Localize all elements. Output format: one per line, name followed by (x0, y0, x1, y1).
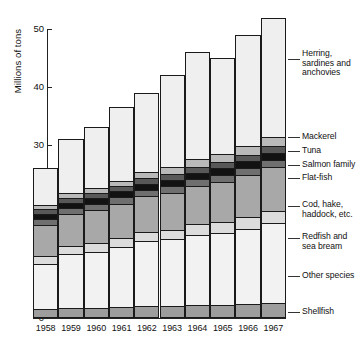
bar-segment (210, 154, 235, 162)
x-axis-line (33, 318, 286, 319)
legend-label-redfish: Redfish and sea bream (302, 232, 347, 251)
legend-leader-line-flat (288, 178, 300, 179)
bar-1963 (160, 75, 185, 318)
bar-segment (261, 211, 286, 223)
bar-segment (58, 246, 83, 254)
bar-segment (210, 175, 235, 182)
bar-segment (185, 159, 210, 167)
bar-segment (185, 305, 210, 318)
x-tick-label-1959: 1959 (58, 322, 83, 336)
legend-leader-line-cod (288, 206, 300, 207)
bar-segment (235, 229, 260, 304)
legend-label-salmon: Salmon family (302, 160, 355, 170)
legend-leader-line-salmon (288, 165, 300, 166)
bar-segment (58, 254, 83, 308)
bar-segment (210, 305, 235, 318)
bar-segment (235, 217, 260, 229)
bar-1964 (185, 52, 210, 318)
bar-segment (235, 161, 260, 168)
bar-segment (235, 35, 260, 146)
bar-segment (33, 256, 58, 264)
bar-1965 (210, 58, 235, 318)
bar-segment (134, 232, 159, 241)
bar-segment (58, 214, 83, 246)
bar-segment (210, 58, 235, 154)
bar-segment (160, 239, 185, 305)
bar-segment (33, 264, 58, 309)
legend-leader-line-other (288, 276, 300, 277)
legend-label-mackerel: Mackerel (302, 132, 336, 142)
bar-segment (33, 225, 58, 256)
bar-segment (261, 137, 286, 146)
bar-segment (160, 167, 185, 174)
legend-leader-line-tuna (288, 151, 300, 152)
bar-segment (33, 309, 58, 318)
bar-1958 (33, 168, 58, 318)
bar-segment (134, 306, 159, 318)
x-tick-label-1960: 1960 (84, 322, 109, 336)
x-tick-label-1967: 1967 (261, 322, 286, 336)
bar-segment (134, 93, 159, 172)
bar-segment (58, 308, 83, 318)
bar-segment (84, 210, 109, 244)
bar-segment (109, 307, 134, 318)
bar-segment (134, 241, 159, 306)
bar-1959 (58, 139, 83, 318)
bar-segment (160, 306, 185, 318)
bar-segment (185, 186, 210, 224)
bar-1962 (134, 93, 159, 318)
x-tick-label-1965: 1965 (210, 322, 235, 336)
bar-1967 (261, 18, 286, 318)
bar-segment (261, 223, 286, 303)
bar-segment (84, 127, 109, 188)
bar-segment (109, 238, 134, 247)
bar-1960 (84, 127, 109, 318)
x-tick-label-1962: 1962 (134, 322, 159, 336)
x-tick-label-1961: 1961 (109, 322, 134, 336)
bar-segment (210, 222, 235, 233)
x-tick-label-1963: 1963 (159, 322, 184, 336)
bar-segment (134, 196, 159, 232)
legend-label-cod: Cod, hake, haddock, etc. (302, 200, 352, 219)
bar-segment (261, 303, 286, 318)
bar-segment (261, 18, 286, 137)
plot-area (33, 20, 286, 318)
bar-segment (235, 146, 260, 155)
legend: Herring, sardines and anchoviesMackerelT… (286, 0, 360, 352)
bar-segment (210, 233, 235, 305)
bar-segment (261, 160, 286, 168)
bar-segment (84, 252, 109, 307)
bar-segment (160, 75, 185, 167)
bar-segment (261, 167, 286, 211)
bar-segment (109, 204, 134, 239)
bar-segment (84, 308, 109, 318)
y-axis-title: Millions of tons (13, 18, 23, 104)
bar-1966 (235, 35, 260, 318)
bar-segment (261, 153, 286, 160)
bar-segment (160, 230, 185, 240)
legend-leader-line-redfish (288, 238, 300, 239)
legend-label-other: Other species (302, 271, 354, 281)
bar-segment (210, 182, 235, 222)
bar-segment (235, 304, 260, 318)
legend-leader-line-shellfish (288, 312, 300, 313)
bar-segment (185, 224, 210, 234)
bar-segment (185, 235, 210, 306)
legend-leader-line-mackerel (288, 137, 300, 138)
bar-segment (58, 139, 83, 193)
bar-1961 (109, 107, 134, 318)
bar-segment (261, 146, 286, 153)
bar-segment (160, 193, 185, 230)
legend-label-tuna: Tuna (302, 146, 321, 156)
bar-segment (33, 168, 58, 205)
x-axis-labels: 1958195919601961196219631964196519661967 (33, 322, 286, 336)
bar-segment (109, 247, 134, 307)
x-tick-label-1964: 1964 (185, 322, 210, 336)
legend-leader-line-herring (288, 59, 300, 60)
bar-segment (109, 107, 134, 181)
bar-segment (235, 168, 260, 175)
legend-label-herring: Herring, sardines and anchovies (302, 49, 351, 78)
bar-segment (235, 155, 260, 162)
legend-label-shellfish: Shellfish (302, 307, 334, 317)
x-tick-label-1958: 1958 (33, 322, 58, 336)
